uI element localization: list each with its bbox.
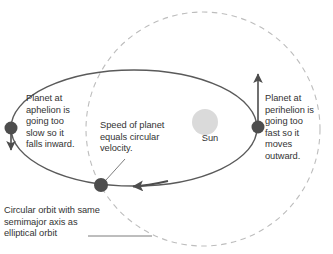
- orbit-diagram: Planet at aphelion is going too slow so …: [0, 0, 333, 254]
- circular-velocity-annotation: Speed of planet equals circular velocity…: [100, 120, 182, 155]
- circular-orbit-annotation: Circular orbit with same semimajor axis …: [4, 205, 134, 240]
- sun-disc: [192, 109, 218, 135]
- perihelion-annotation: Planet at perihelion is going too fast s…: [265, 93, 331, 163]
- sun-label: Sun: [190, 133, 230, 145]
- center-label-leader-line: [106, 159, 125, 180]
- aphelion-annotation: Planet at aphelion is going too slow so …: [26, 93, 104, 151]
- planet-perihelion-dot: [252, 121, 265, 134]
- planet-semimajor-crossing-dot: [94, 178, 108, 192]
- planet-aphelion-dot: [5, 122, 18, 135]
